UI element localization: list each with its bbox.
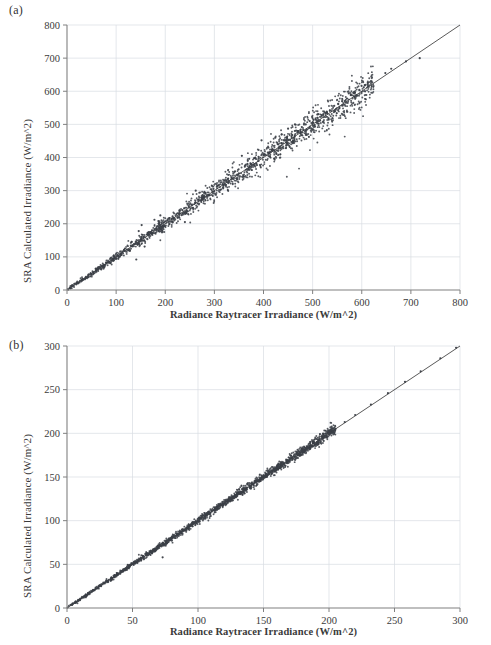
x-tick-label: 300 bbox=[207, 297, 223, 308]
scatter-points bbox=[67, 347, 458, 609]
plot-b-canvas: 050100150200250300050100150200250300 bbox=[0, 330, 491, 645]
panel-b: (b) 050100150200250300050100150200250300… bbox=[0, 330, 491, 645]
x-tick-label: 100 bbox=[108, 297, 124, 308]
scatter-plot-a: 0100200300400500600700800010020030040050… bbox=[0, 0, 491, 330]
y-tick-label: 700 bbox=[44, 53, 60, 64]
y-tick-label: 600 bbox=[44, 86, 60, 97]
y-axis-title-a: SRA Calculated Irradiance (W/m^2) bbox=[21, 119, 33, 283]
y-tick-label: 250 bbox=[44, 384, 60, 395]
y-axis-title-b: SRA Calculated Irradiance (W/m^2) bbox=[21, 434, 33, 598]
x-tick-label: 0 bbox=[64, 297, 69, 308]
y-tick-label: 100 bbox=[44, 251, 60, 262]
x-tick-label: 250 bbox=[387, 615, 403, 626]
x-tick-label: 400 bbox=[256, 297, 272, 308]
y-tick-label: 400 bbox=[44, 152, 60, 163]
x-tick-label: 800 bbox=[452, 297, 468, 308]
y-tick-label: 300 bbox=[44, 185, 60, 196]
plot-a-canvas: 0100200300400500600700800010020030040050… bbox=[0, 0, 491, 330]
y-tick-label: 50 bbox=[50, 559, 61, 570]
y-tick-label: 100 bbox=[44, 515, 60, 526]
y-tick-label: 500 bbox=[44, 119, 60, 130]
scatter-plot-b: 050100150200250300050100150200250300 bbox=[0, 330, 491, 645]
x-tick-label: 200 bbox=[321, 615, 337, 626]
x-tick-label: 600 bbox=[354, 297, 370, 308]
x-tick-label: 500 bbox=[305, 297, 321, 308]
y-tick-label: 200 bbox=[44, 428, 60, 439]
x-tick-label: 100 bbox=[190, 615, 206, 626]
scatter-points bbox=[67, 57, 421, 291]
x-tick-label: 200 bbox=[157, 297, 173, 308]
y-tick-label: 200 bbox=[44, 218, 60, 229]
x-axis-title-a: Radiance Raytracer Irradiance (W/m^2) bbox=[18, 309, 491, 320]
x-tick-label: 0 bbox=[64, 615, 69, 626]
x-tick-label: 50 bbox=[127, 615, 138, 626]
y-tick-label: 0 bbox=[55, 285, 60, 296]
y-tick-label: 150 bbox=[44, 472, 60, 483]
y-tick-label: 0 bbox=[55, 603, 60, 614]
y-tick-label: 800 bbox=[44, 20, 60, 31]
x-tick-label: 700 bbox=[403, 297, 419, 308]
y-tick-label: 300 bbox=[44, 341, 60, 352]
x-axis-title-b: Radiance Raytracer Irradiance (W/m^2) bbox=[18, 626, 491, 637]
x-tick-label: 150 bbox=[256, 615, 272, 626]
x-tick-label: 300 bbox=[452, 615, 468, 626]
panel-a: (a) 010020030040050060070080001002003004… bbox=[0, 0, 491, 330]
